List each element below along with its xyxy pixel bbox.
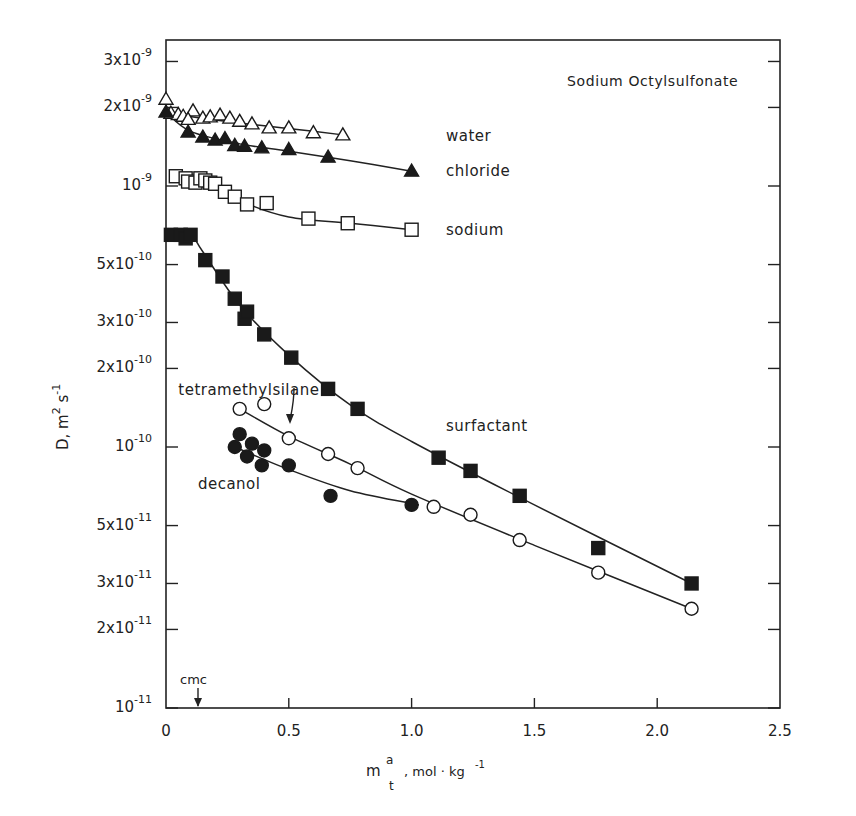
x-tick-label: 1.0 — [400, 722, 424, 740]
y-tick-label: 3x10-9 — [104, 46, 152, 69]
y-tick-label: 10-11 — [115, 693, 152, 716]
svg-text:a: a — [386, 753, 393, 767]
tetramethylsilane-label: tetramethylsilane — [178, 381, 319, 399]
svg-text:D, m2 s-1: D, m2 s-1 — [50, 384, 72, 450]
decanol-point — [228, 441, 241, 454]
sodium-point — [228, 190, 241, 203]
water-point — [159, 92, 173, 104]
water-point — [282, 121, 296, 133]
decanol-point — [255, 459, 268, 472]
y-tick-label: 5x10-10 — [97, 250, 152, 273]
y-tick-label: 3x10-10 — [97, 307, 152, 330]
sodium-point — [405, 223, 418, 236]
fit-curves — [166, 112, 692, 609]
decanol-point — [324, 489, 337, 502]
sodium-point — [241, 198, 254, 211]
svg-text:m: m — [366, 762, 381, 780]
decanol-point — [241, 450, 254, 463]
decanol-point — [282, 459, 295, 472]
surfactant-point — [432, 451, 445, 464]
surfactant-point — [184, 228, 197, 241]
water-label: water — [446, 127, 492, 145]
tetramethylsilane-point — [513, 534, 526, 547]
surfactant-point — [464, 464, 477, 477]
data-markers — [159, 92, 698, 615]
x-tick-label: 2.0 — [645, 722, 669, 740]
decanol-point — [405, 498, 418, 511]
surfactant-label: surfactant — [446, 417, 528, 435]
tetramethylsilane-point — [464, 508, 477, 521]
y-tick-label: 10-9 — [122, 171, 152, 194]
series-labels: waterchloridesodiumsurfactanttetramethyl… — [178, 127, 527, 493]
tetramethylsilane-point — [685, 602, 698, 615]
sodium-point — [260, 197, 273, 210]
sodium-label: sodium — [446, 221, 504, 239]
surfactant-point — [228, 292, 241, 305]
y-tick-label: 2x10-9 — [104, 92, 152, 115]
chloride-point — [282, 142, 296, 154]
surfactant-point — [351, 402, 364, 415]
tetramethylsilane-point — [322, 448, 335, 461]
decanol-label: decanol — [198, 475, 261, 493]
surfactant-point — [258, 328, 271, 341]
svg-text:-1: -1 — [475, 759, 485, 770]
tetramethylsilane-point — [258, 398, 271, 411]
arrow-down-icon — [194, 698, 202, 707]
surfactant-point — [216, 270, 229, 283]
surfactant-point — [513, 489, 526, 502]
y-axis-label: D, m2 s-1 — [50, 384, 72, 450]
cmc-annotation: cmc — [180, 672, 207, 707]
decanol-point — [245, 437, 258, 450]
surfactant-point — [322, 382, 335, 395]
chloride-label: chloride — [446, 162, 510, 180]
decanol-point — [258, 444, 271, 457]
water-point — [245, 117, 259, 129]
surfactant-point — [285, 351, 298, 364]
x-tick-label: 2.5 — [768, 722, 792, 740]
tetramethylsilane-point — [351, 462, 364, 475]
arrow-down-icon — [286, 414, 294, 424]
surfactant-point — [592, 542, 605, 555]
x-tick-label: 0.5 — [277, 722, 301, 740]
chart-title: Sodium Octylsulfonate — [567, 73, 738, 89]
x-tick-label: 1.5 — [522, 722, 546, 740]
surfactant-point — [199, 254, 212, 267]
decanol-point — [233, 428, 246, 441]
svg-text:t: t — [389, 779, 394, 793]
tetramethylsilane-point — [282, 432, 295, 445]
surfactant-point — [241, 305, 254, 318]
y-tick-label: 5x10-11 — [97, 511, 152, 534]
y-tick-label: 3x10-11 — [97, 568, 152, 591]
tetramethylsilane-point — [233, 402, 246, 415]
tetramethylsilane-curve — [240, 409, 692, 609]
sodium-point — [302, 212, 315, 225]
surfactant-point — [685, 577, 698, 590]
tetramethylsilane-point — [427, 500, 440, 513]
sodium-point — [341, 217, 354, 230]
x-tick-label: 0 — [161, 722, 171, 740]
surfactant-curve — [171, 233, 692, 584]
svg-text:, mol · kg: , mol · kg — [404, 764, 465, 779]
y-tick-label: 10-10 — [115, 432, 152, 455]
chloride-point — [218, 132, 232, 144]
x-axis-label: m a t , mol · kg -1 — [366, 753, 485, 793]
y-tick-label: 2x10-10 — [97, 353, 152, 376]
x-axis-ticks: 00.51.01.52.02.5 — [161, 698, 792, 740]
svg-text:cmc: cmc — [180, 672, 207, 687]
tetramethylsilane-point — [592, 566, 605, 579]
y-tick-label: 2x10-11 — [97, 614, 152, 637]
diffusion-chart: 3x10-92x10-910-95x10-103x10-102x10-1010-… — [0, 0, 856, 816]
